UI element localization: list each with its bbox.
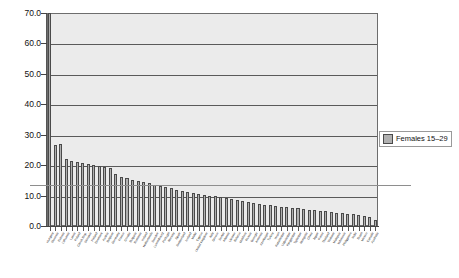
x-tick bbox=[292, 227, 293, 231]
bar bbox=[357, 215, 360, 226]
bar bbox=[159, 186, 162, 226]
reference-line bbox=[30, 185, 411, 186]
y-axis-labels: 70.0 60.0 50.0 40.0 30.0 20.0 10.0 0.0 bbox=[0, 0, 41, 278]
bar bbox=[285, 207, 288, 226]
bar bbox=[164, 187, 167, 226]
bar bbox=[280, 207, 283, 226]
y-axis-line bbox=[46, 13, 47, 227]
bar bbox=[197, 194, 200, 226]
bar bbox=[363, 216, 366, 226]
bar bbox=[81, 163, 84, 226]
x-tick bbox=[315, 227, 316, 231]
bar bbox=[203, 195, 206, 226]
bar bbox=[87, 164, 90, 226]
bar bbox=[219, 197, 222, 226]
y-tick-50 bbox=[41, 74, 47, 75]
bar bbox=[137, 181, 140, 226]
y-tick-60 bbox=[41, 43, 47, 44]
bar bbox=[330, 212, 333, 226]
bar bbox=[92, 165, 95, 226]
x-tick bbox=[342, 227, 343, 231]
bar bbox=[214, 196, 217, 226]
bar bbox=[269, 205, 272, 226]
bar bbox=[109, 168, 112, 226]
x-axis-category-labels: HungarySloveniaEstoniaLithuaniaLatviaPol… bbox=[47, 232, 378, 278]
y-tick-30 bbox=[41, 135, 47, 136]
bar bbox=[368, 217, 371, 226]
bar-chart: 70.0 60.0 50.0 40.0 30.0 20.0 10.0 0.0 H… bbox=[0, 0, 459, 278]
bar bbox=[341, 213, 344, 226]
bar bbox=[175, 190, 178, 227]
x-tick bbox=[226, 227, 227, 231]
bar bbox=[230, 199, 233, 226]
y-axis-label-30: 30.0 bbox=[1, 131, 41, 139]
y-axis-label-50: 50.0 bbox=[1, 70, 41, 78]
y-axis-label-20: 20.0 bbox=[1, 161, 41, 169]
bar bbox=[98, 166, 101, 226]
bar bbox=[308, 210, 311, 226]
bar bbox=[302, 209, 305, 226]
y-tick-20 bbox=[41, 165, 47, 166]
bar bbox=[291, 208, 294, 226]
bar bbox=[346, 214, 349, 226]
y-tick-10 bbox=[41, 196, 47, 197]
y-axis-label-0: 0.0 bbox=[1, 222, 41, 230]
bar bbox=[319, 211, 322, 226]
bar bbox=[142, 182, 145, 226]
y-axis-label-10: 10.0 bbox=[1, 192, 41, 200]
y-axis-label-70: 70.0 bbox=[1, 9, 41, 17]
bar-series-females-15-29 bbox=[47, 13, 378, 226]
y-tick-40 bbox=[41, 104, 47, 105]
bar bbox=[76, 162, 79, 226]
x-tick bbox=[287, 227, 288, 231]
y-axis-label-60: 60.0 bbox=[1, 39, 41, 47]
bar bbox=[170, 188, 173, 226]
bar bbox=[148, 183, 151, 226]
bar bbox=[70, 161, 73, 226]
x-tick bbox=[144, 227, 145, 231]
bar bbox=[296, 208, 299, 226]
bar bbox=[313, 210, 316, 226]
bar bbox=[103, 167, 106, 226]
bar bbox=[274, 206, 277, 226]
y-tick-0 bbox=[41, 226, 47, 227]
bar bbox=[247, 202, 250, 226]
y-axis-label-40: 40.0 bbox=[1, 100, 41, 108]
y-tick-70 bbox=[41, 13, 47, 14]
bar bbox=[263, 205, 266, 226]
bar bbox=[252, 203, 255, 226]
bar bbox=[186, 192, 189, 226]
bar bbox=[181, 191, 184, 226]
x-tick bbox=[248, 227, 249, 231]
chart-legend: Females 15–29 bbox=[379, 131, 452, 147]
legend-label: Females 15–29 bbox=[396, 135, 448, 143]
bar bbox=[65, 159, 68, 226]
bar bbox=[324, 211, 327, 226]
bar bbox=[48, 13, 51, 226]
bar bbox=[192, 193, 195, 226]
bar bbox=[208, 196, 211, 226]
bar bbox=[335, 213, 338, 226]
bar bbox=[114, 174, 117, 226]
bar bbox=[236, 200, 239, 226]
bar bbox=[258, 204, 261, 226]
bar bbox=[153, 185, 156, 226]
x-tick bbox=[110, 227, 111, 231]
legend-swatch-icon bbox=[383, 134, 393, 144]
bar bbox=[225, 198, 228, 226]
x-tick bbox=[270, 227, 271, 231]
bar bbox=[241, 201, 244, 226]
bar bbox=[352, 214, 355, 226]
x-tick bbox=[133, 227, 134, 231]
bar bbox=[131, 180, 134, 226]
x-tick bbox=[138, 227, 139, 231]
